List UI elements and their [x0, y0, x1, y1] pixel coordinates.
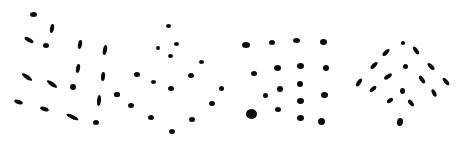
- dot-mark: [114, 92, 120, 97]
- dot-mark: [134, 72, 140, 77]
- dot-mark: [209, 101, 215, 106]
- dot-mark: [297, 63, 304, 69]
- dot-mark: [297, 98, 304, 104]
- dot-mark: [403, 64, 408, 69]
- dot-mark: [151, 80, 156, 84]
- dot-mark: [407, 99, 415, 108]
- dot-mark: [101, 71, 106, 80]
- dot-mark: [46, 79, 58, 89]
- dot-mark: [189, 117, 195, 122]
- dot-mark: [169, 129, 175, 134]
- dot-mark: [93, 120, 99, 125]
- dot-mark: [24, 36, 35, 44]
- dot-mark: [219, 86, 224, 91]
- dot-mark: [426, 61, 435, 70]
- dot-mark: [412, 45, 420, 55]
- dot-mark: [156, 46, 160, 50]
- dot-mark: [323, 65, 329, 71]
- dot-mark: [128, 103, 134, 108]
- dot-mark: [297, 81, 303, 87]
- dot-mark: [274, 65, 281, 71]
- dot-mark: [396, 118, 403, 127]
- dot-mark: [383, 72, 393, 80]
- dot-mark: [381, 47, 390, 56]
- dot-mark: [168, 86, 174, 91]
- dot-mark: [246, 109, 257, 119]
- dot-mark: [401, 41, 405, 45]
- dot-mark: [77, 39, 83, 49]
- dot-mark: [269, 40, 275, 45]
- dot-mark: [43, 43, 49, 48]
- dot-mark: [277, 86, 283, 92]
- dot-mark: [263, 93, 268, 98]
- dot-mark: [318, 118, 325, 125]
- dot-mark: [430, 89, 437, 98]
- dot-mark: [320, 39, 327, 45]
- dot-mark: [21, 72, 33, 82]
- dot-mark: [355, 77, 363, 87]
- dot-mark: [174, 42, 179, 46]
- dot-mark: [168, 54, 173, 58]
- dot-pattern-figure: [0, 0, 470, 146]
- dot-mark: [251, 71, 257, 76]
- dot-mark: [400, 88, 405, 94]
- dot-mark: [293, 38, 300, 43]
- dot-mark: [386, 96, 394, 103]
- dot-mark: [13, 99, 23, 106]
- dot-mark: [199, 60, 204, 64]
- dot-mark: [97, 94, 102, 105]
- dot-mark: [30, 12, 37, 17]
- dot-mark: [369, 85, 378, 93]
- dot-mark: [418, 74, 426, 84]
- dot-mark: [49, 23, 55, 33]
- dot-mark: [188, 73, 194, 78]
- dot-mark: [369, 60, 378, 69]
- dot-mark: [442, 76, 451, 85]
- dot-mark: [39, 106, 49, 113]
- dot-mark: [148, 115, 154, 120]
- dot-mark: [75, 63, 81, 73]
- dot-mark: [70, 84, 76, 90]
- dot-mark: [297, 115, 304, 121]
- dot-mark: [321, 92, 328, 98]
- dot-mark: [166, 24, 171, 28]
- dot-mark: [275, 107, 281, 112]
- dot-mark: [242, 42, 250, 48]
- dot-mark: [65, 112, 78, 121]
- dot-mark: [102, 45, 108, 56]
